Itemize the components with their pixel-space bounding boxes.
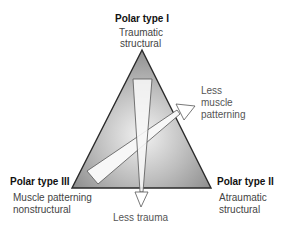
polar-type-1-title: Polar type I [115, 13, 169, 25]
polar-type-3-line2: nonstructural [13, 204, 71, 216]
polar-type-2-title: Polar type II [217, 176, 274, 188]
polar-type-2-line2: structural [219, 204, 260, 216]
less-muscle-patterning-line1: Less [201, 85, 222, 97]
polar-type-3-line1: Muscle patterning [13, 192, 92, 204]
less-muscle-patterning-line3: patterning [201, 109, 245, 121]
polar-type-3-title: Polar type III [10, 176, 69, 188]
polar-type-1-line2: structural [120, 38, 161, 50]
less-trauma-label: Less trauma [113, 212, 168, 224]
less-muscle-patterning-line2: muscle [201, 97, 233, 109]
polar-type-2-line1: Atraumatic [219, 192, 267, 204]
